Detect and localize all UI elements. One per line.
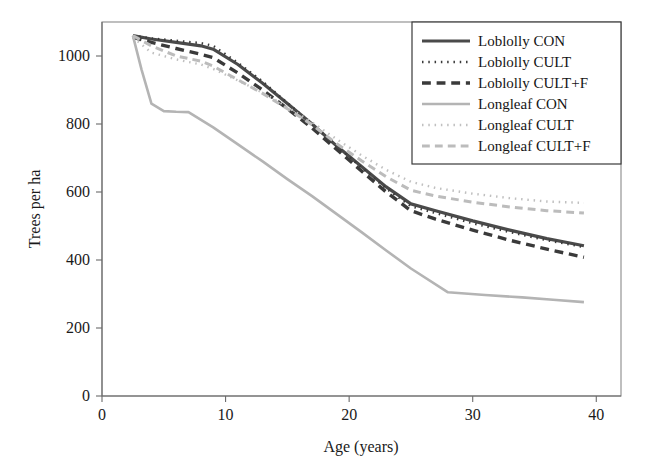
- legend-label: Loblolly CULT: [478, 54, 571, 70]
- line-chart: 01020304002004006008001000 Loblolly CONL…: [0, 0, 659, 476]
- y-axis-title: Trees per ha: [26, 170, 44, 249]
- x-tick-label: 40: [588, 406, 604, 423]
- chart-container: 01020304002004006008001000 Loblolly CONL…: [0, 0, 659, 476]
- legend-label: Longleaf CON: [478, 96, 568, 112]
- x-tick-label: 30: [465, 406, 481, 423]
- y-tick-label: 1000: [58, 47, 90, 64]
- x-axis-title: Age (years): [323, 438, 398, 456]
- legend-label: Loblolly CON: [478, 33, 565, 49]
- y-tick-label: 800: [66, 115, 90, 132]
- y-tick-label: 200: [66, 319, 90, 336]
- x-tick-label: 0: [98, 406, 106, 423]
- x-tick-label: 10: [218, 406, 234, 423]
- y-tick-label: 400: [66, 251, 90, 268]
- legend-label: Loblolly CULT+F: [478, 75, 588, 91]
- legend-label: Longleaf CULT+F: [478, 138, 590, 154]
- legend-label: Longleaf CULT: [478, 117, 574, 133]
- y-tick-label: 600: [66, 183, 90, 200]
- x-tick-label: 20: [341, 406, 357, 423]
- legend-group: Loblolly CONLoblolly CULTLoblolly CULT+F…: [412, 22, 621, 164]
- y-tick-label: 0: [82, 387, 90, 404]
